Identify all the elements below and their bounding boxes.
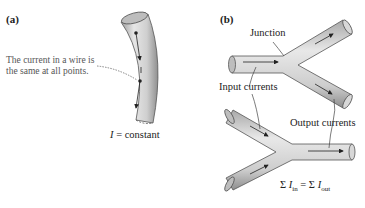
junction-label: Junction [250,28,286,39]
panel-b-label: (b) [220,14,233,25]
annotation-leader-a [97,66,137,80]
annotation-a-line1: The current in a wire is [6,55,94,66]
output-currents-label: Output currents [290,118,356,129]
input-currents-label: Input currents [219,82,278,93]
junction-wire-top [229,19,355,110]
curved-wire [120,10,158,124]
equation-constant-text: = constant [114,129,160,140]
annotation-a-line2: the same at all points. [6,66,89,77]
equals-sum-symbol: = Σ [298,179,318,190]
equation-constant-current: I = constant [110,130,160,141]
sum-symbol-in: Σ [280,179,289,190]
subscript-out: out [321,185,330,193]
kirchhoff-junction-equation: Σ Iin = Σ Iout [280,180,330,193]
panel-a-label: (a) [6,14,19,25]
diagram-canvas [0,0,365,208]
